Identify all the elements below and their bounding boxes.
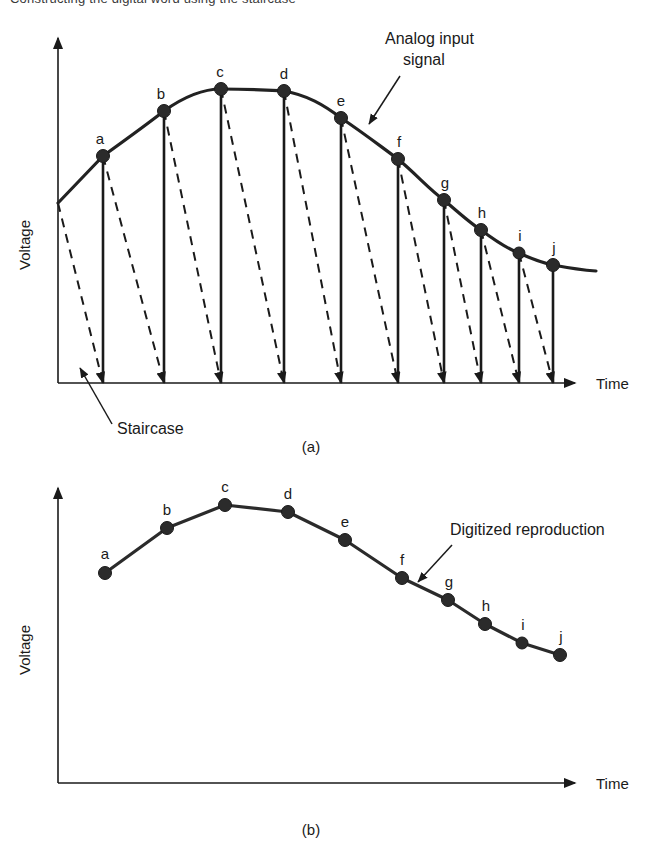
- panel-a-point-b: [158, 105, 171, 118]
- staircase-leader-arrow-icon: [80, 368, 112, 424]
- panel-b-point-h: [479, 618, 492, 631]
- panel-b-label-a: a: [101, 545, 110, 562]
- digitized-reproduction-label: Digitized reproduction: [450, 521, 605, 538]
- panel-a-x-axis-label: Time: [596, 375, 629, 392]
- panel-a-label-j: j: [551, 239, 555, 256]
- panel-a-point-d: [278, 85, 291, 98]
- panel-a-point-f: [392, 153, 405, 166]
- panel-a-point-c: [215, 83, 228, 96]
- panel-b-label-d: d: [284, 485, 292, 502]
- panel-a-point-i: [513, 247, 525, 259]
- staircase-label: Staircase: [117, 420, 184, 437]
- panel-b-point-a: [99, 567, 112, 580]
- panel-a-label-c: c: [216, 63, 224, 80]
- panel-b-point-i: [516, 637, 528, 649]
- panel-a: Voltage Time: [16, 30, 629, 455]
- figure-analog-to-digital-conversion: Voltage Time: [0, 0, 672, 851]
- panel-a-label-a: a: [96, 130, 105, 147]
- panel-a-label-e: e: [337, 92, 345, 109]
- panel-b-label-h: h: [482, 597, 490, 614]
- panel-a-point-j: [547, 259, 560, 272]
- panel-a-label-i: i: [518, 227, 521, 244]
- panel-b-label-e: e: [341, 513, 349, 530]
- panel-a-caption: (a): [302, 438, 320, 455]
- panel-b-point-e: [339, 534, 352, 547]
- panel-a-label-g: g: [441, 174, 449, 191]
- panel-b-point-f: [396, 572, 409, 585]
- analog-input-signal-leader-arrow-icon: [369, 76, 400, 124]
- panel-b-point-j: [554, 649, 567, 662]
- panel-b-label-j: j: [558, 628, 562, 645]
- panel-b-point-g: [442, 594, 455, 607]
- analog-input-signal-label-line1: Analog input: [385, 30, 475, 47]
- panel-a-label-h: h: [478, 204, 486, 221]
- panel-b: Voltage Time a b c d e f g h i j: [16, 478, 629, 838]
- panel-b-label-i: i: [521, 616, 524, 633]
- panel-a-label-b: b: [157, 85, 165, 102]
- panel-b-label-c: c: [221, 478, 229, 495]
- panel-b-point-d: [282, 506, 295, 519]
- panel-b-point-labels: a b c d e f g h i j: [101, 478, 563, 645]
- panel-b-label-f: f: [400, 551, 405, 568]
- panel-a-label-f: f: [397, 133, 402, 150]
- panel-a-point-g: [438, 194, 451, 207]
- panel-b-label-b: b: [163, 501, 171, 518]
- panel-a-y-axis-label: Voltage: [16, 220, 33, 270]
- panel-b-point-b: [161, 522, 174, 535]
- panel-a-sample-points: [97, 83, 560, 272]
- panel-a-point-h: [475, 224, 488, 237]
- panel-b-y-axis-label: Voltage: [16, 625, 33, 675]
- panel-a-point-e: [335, 112, 348, 125]
- panel-a-label-d: d: [280, 65, 288, 82]
- analog-input-signal-annotation: Analog input signal: [369, 30, 475, 124]
- analog-input-signal-label-line2: signal: [403, 51, 445, 68]
- panel-a-analog-curve: [58, 89, 596, 271]
- panel-a-sample-verticals: [103, 89, 553, 383]
- panel-b-caption: (b): [302, 821, 320, 838]
- panel-a-point-a: [97, 150, 110, 163]
- panel-b-label-g: g: [445, 573, 453, 590]
- panel-b-point-c: [219, 499, 232, 512]
- staircase-annotation: Staircase: [80, 368, 184, 437]
- panel-b-x-axis-label: Time: [596, 775, 629, 792]
